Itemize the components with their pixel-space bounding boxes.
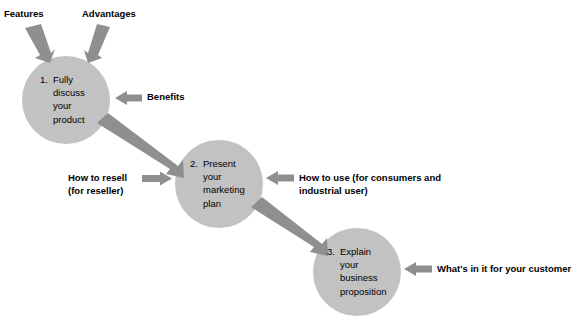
- callout-how-to-resell-line-2: (for reseller): [68, 185, 123, 196]
- advantages-arrow-icon: [84, 24, 110, 63]
- features-arrow-icon: [25, 24, 55, 63]
- callout-how-to-resell-line-1: How to resell: [68, 172, 127, 183]
- callout-advantages-line-1: Advantages: [82, 8, 136, 19]
- callout-features: Features: [4, 8, 44, 21]
- callout-how-to-use-line-1: How to use (for consumers and: [299, 172, 441, 183]
- callout-how-to-use: How to use (for consumers and industrial…: [299, 172, 441, 197]
- benefits-arrow-icon: [115, 91, 142, 105]
- connector-2-to-3-arrow-icon: [251, 197, 328, 256]
- whats-in-it-arrow-icon: [404, 262, 432, 276]
- callout-advantages: Advantages: [82, 8, 136, 21]
- connector-1-to-2-arrow-icon: [97, 113, 184, 178]
- callout-how-to-resell: How to resell (for reseller): [68, 172, 127, 197]
- step-1-circle: [22, 56, 110, 144]
- callout-how-to-use-line-2: industrial user): [299, 185, 368, 196]
- callout-benefits-line-1: Benefits: [147, 91, 184, 102]
- process-flow-diagram: 1.Fullydiscussyourproduct 2.Presentyourm…: [0, 0, 583, 321]
- callout-whats-in-it: What's in it for your customer: [437, 263, 571, 276]
- step-2-circle: [175, 140, 263, 228]
- how-to-use-arrow-icon: [266, 171, 294, 185]
- callout-whats-in-it-line-1: What's in it for your customer: [437, 263, 571, 274]
- callout-features-line-1: Features: [4, 8, 44, 19]
- callout-benefits: Benefits: [147, 91, 184, 104]
